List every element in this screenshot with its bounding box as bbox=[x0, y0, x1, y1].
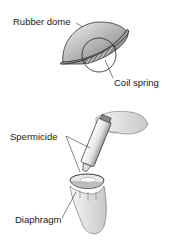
leader-line-spring bbox=[105, 60, 113, 78]
spermicide-application-illustration bbox=[62, 111, 148, 234]
leader-line-dome bbox=[76, 23, 83, 27]
leader-line-spermicide-tube bbox=[66, 136, 90, 148]
leader-line-diaphragm bbox=[62, 192, 76, 218]
label-rubber-dome: Rubber dome bbox=[13, 17, 71, 27]
diagram-canvas bbox=[0, 0, 170, 247]
label-coil-spring: Coil spring bbox=[114, 78, 159, 88]
label-spermicide: Spermicide bbox=[10, 132, 58, 142]
diaphragm-illustration bbox=[61, 22, 129, 78]
label-diaphragm: Diaphragm bbox=[15, 215, 61, 225]
leader-line-spermicide-cup bbox=[66, 136, 80, 172]
